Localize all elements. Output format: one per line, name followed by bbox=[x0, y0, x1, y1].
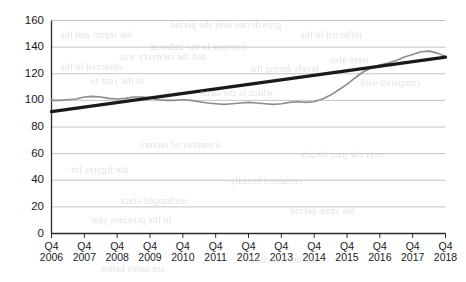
x-axis-tick-label: Q42008 bbox=[100, 241, 134, 264]
y-axis-tick-label: 40 bbox=[31, 174, 44, 186]
line-chart: 020406080100120140160 Q42006Q42007Q42008… bbox=[0, 0, 466, 282]
y-axis-tick-label: 20 bbox=[31, 201, 44, 213]
x-axis-tick-label: Q42013 bbox=[264, 241, 298, 264]
x-tick-year: 2010 bbox=[166, 252, 200, 264]
x-axis-tick-label: Q42014 bbox=[297, 241, 331, 264]
y-axis-tick-label: 160 bbox=[25, 15, 44, 27]
y-axis-tick-label: 100 bbox=[25, 94, 44, 106]
x-tick-year: 2006 bbox=[35, 252, 69, 264]
x-axis-tick-label: Q42007 bbox=[67, 241, 101, 264]
x-axis-tick-label: Q42009 bbox=[133, 241, 167, 264]
x-tick-year: 2015 bbox=[330, 252, 364, 264]
x-tick-year: 2013 bbox=[264, 252, 298, 264]
x-tick-year: 2014 bbox=[297, 252, 331, 264]
x-axis-tick-label: Q42017 bbox=[396, 241, 430, 264]
x-tick-year: 2009 bbox=[133, 252, 167, 264]
x-tick-year: 2008 bbox=[100, 252, 134, 264]
x-tick-year: 2012 bbox=[232, 252, 266, 264]
x-tick-year: 2011 bbox=[199, 252, 233, 264]
y-axis-tick-label: 60 bbox=[31, 148, 44, 160]
x-axis-tick-label: Q42011 bbox=[199, 241, 233, 264]
x-axis-tick-label: Q42016 bbox=[363, 241, 397, 264]
x-axis-tick-label: Q42018 bbox=[429, 241, 463, 264]
x-tick-year: 2007 bbox=[67, 252, 101, 264]
y-axis-tick-label: 0 bbox=[38, 228, 44, 240]
x-axis-tick-label: Q42010 bbox=[166, 241, 200, 264]
x-tick-year: 2018 bbox=[429, 252, 463, 264]
x-tick-year: 2017 bbox=[396, 252, 430, 264]
y-axis-tick-label: 80 bbox=[31, 121, 44, 133]
y-axis-tick-label: 140 bbox=[25, 41, 44, 53]
x-axis-tick-label: Q42006 bbox=[35, 241, 69, 264]
x-axis-tick-label: Q42015 bbox=[330, 241, 364, 264]
y-axis-tick-label: 120 bbox=[25, 68, 44, 80]
x-axis-tick-label: Q42012 bbox=[232, 241, 266, 264]
x-tick-year: 2016 bbox=[363, 252, 397, 264]
